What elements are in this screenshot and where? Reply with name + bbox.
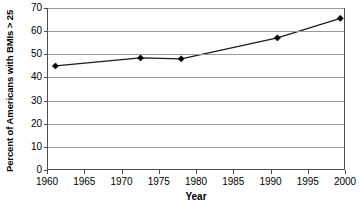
y-tick-label-60: 60 (18, 26, 42, 36)
plot-area (47, 8, 345, 170)
gridline-y-60 (48, 31, 344, 32)
y-tick-label-50: 50 (18, 49, 42, 59)
x-tick-mark-1995 (308, 170, 309, 174)
x-tick-mark-1975 (159, 170, 160, 174)
y-tick-mark-10 (44, 147, 48, 148)
y-axis-title: Percent of Americans with BMIs > 25 (2, 5, 16, 177)
y-tick-mark-40 (44, 77, 48, 78)
x-tick-mark-1990 (271, 170, 272, 174)
x-tick-mark-1960 (47, 170, 48, 174)
y-tick-mark-50 (44, 54, 48, 55)
line-chart: Percent of Americans with BMIs > 25 0102… (0, 0, 364, 211)
x-tick-label-1975: 1975 (148, 176, 170, 188)
gridline-y-30 (48, 101, 344, 102)
series-line-0 (55, 18, 340, 66)
x-axis-title: Year (47, 191, 345, 202)
x-tick-mark-2000 (345, 170, 346, 174)
x-tick-label-1995: 1995 (297, 176, 319, 188)
x-tick-label-2000: 2000 (334, 176, 356, 188)
y-tick-mark-20 (44, 124, 48, 125)
x-axis-tick-marks (47, 170, 345, 175)
data-point-marker (337, 15, 343, 21)
y-tick-label-10: 10 (18, 142, 42, 152)
x-tick-label-1990: 1990 (259, 176, 281, 188)
x-tick-mark-1965 (84, 170, 85, 174)
x-tick-label-1960: 1960 (36, 176, 58, 188)
x-tick-label-1980: 1980 (185, 176, 207, 188)
y-tick-label-40: 40 (18, 72, 42, 82)
y-tick-label-0: 0 (18, 165, 42, 175)
x-tick-mark-1985 (233, 170, 234, 174)
x-tick-label-1970: 1970 (110, 176, 132, 188)
x-axis-tick-labels: 196019651970197519801985199019952000 (47, 176, 345, 190)
gridline-y-70 (48, 8, 344, 9)
data-point-marker (52, 63, 58, 69)
y-tick-label-30: 30 (18, 96, 42, 106)
data-point-marker (274, 35, 280, 41)
data-point-marker (178, 56, 184, 62)
x-tick-mark-1970 (122, 170, 123, 174)
gridline-y-50 (48, 54, 344, 55)
y-tick-mark-30 (44, 101, 48, 102)
x-tick-label-1965: 1965 (73, 176, 95, 188)
x-tick-mark-1980 (196, 170, 197, 174)
y-tick-label-20: 20 (18, 119, 42, 129)
y-tick-mark-60 (44, 31, 48, 32)
gridline-y-40 (48, 77, 344, 78)
x-tick-label-1985: 1985 (222, 176, 244, 188)
data-series-layer (48, 8, 344, 169)
data-point-marker (137, 55, 143, 61)
y-axis-tick-labels: 010203040506070 (18, 8, 42, 170)
gridline-y-20 (48, 124, 344, 125)
y-tick-mark-70 (44, 8, 48, 9)
y-tick-label-70: 70 (18, 3, 42, 13)
gridline-y-10 (48, 147, 344, 148)
